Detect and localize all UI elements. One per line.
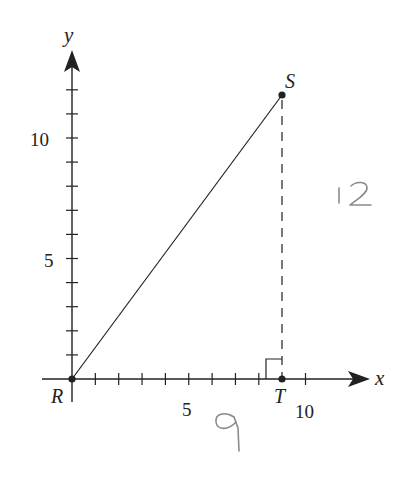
x-tick-label-10: 10 xyxy=(295,401,314,422)
right-angle-marker-icon xyxy=(266,359,282,379)
y-axis xyxy=(64,50,80,402)
x-tick-label-5: 5 xyxy=(182,399,192,420)
x-axis xyxy=(42,371,370,387)
y-tick-label-10: 10 xyxy=(30,129,49,150)
segment-RS xyxy=(72,95,282,379)
point-label-R: R xyxy=(50,385,63,407)
y-tick-label-5: 5 xyxy=(44,250,54,271)
coordinate-diagram: 5 10 5 10 x y R S T xyxy=(0,0,418,482)
point-T xyxy=(278,375,285,382)
x-axis-label: x xyxy=(374,366,385,390)
point-S xyxy=(278,91,285,98)
handwritten-9 xyxy=(216,414,239,451)
point-R xyxy=(68,375,75,382)
point-label-S: S xyxy=(285,70,295,92)
point-label-T: T xyxy=(274,385,287,407)
handwritten-12 xyxy=(339,182,371,205)
y-axis-label: y xyxy=(62,23,74,47)
